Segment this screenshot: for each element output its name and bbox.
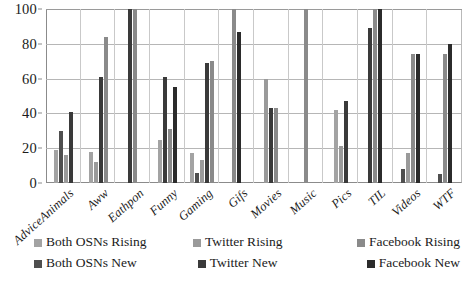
bar — [99, 77, 103, 183]
group-separator — [426, 9, 427, 183]
bar-group — [289, 9, 324, 183]
group-separator — [322, 9, 323, 183]
y-axis-tick-label: 40 — [22, 106, 37, 121]
bar — [401, 169, 405, 183]
bar — [269, 108, 273, 183]
bar — [334, 110, 338, 183]
y-axis-tick-mark — [38, 9, 42, 10]
bar — [200, 160, 204, 183]
bar-groups — [46, 9, 462, 183]
legend-label: Both OSNs Rising — [46, 234, 147, 250]
bar — [339, 146, 343, 183]
group-separator — [288, 9, 289, 183]
legend-label: Both OSNs New — [46, 255, 137, 271]
bar — [163, 77, 167, 183]
legend-swatch — [357, 239, 365, 247]
legend-item[interactable]: Both OSNs Rising — [34, 232, 193, 252]
legend-swatch — [34, 239, 42, 247]
chart-legend: Both OSNs RisingTwitter RisingFacebook R… — [34, 232, 460, 280]
legend-item[interactable]: Twitter Rising — [193, 232, 357, 252]
x-axis-tick-label: Pics — [329, 186, 355, 212]
bar-group — [185, 9, 220, 183]
bar — [133, 9, 137, 183]
bar-group — [254, 9, 289, 183]
legend-row: Both OSNs RisingTwitter RisingFacebook R… — [34, 232, 460, 252]
plot-area — [46, 9, 462, 183]
legend-swatch — [193, 239, 201, 247]
x-axis-tick-label: WTF — [430, 186, 459, 214]
bar-group — [427, 9, 462, 183]
bar — [69, 112, 73, 183]
bar — [406, 153, 410, 183]
legend-swatch — [34, 260, 42, 268]
bar — [438, 174, 442, 183]
bar — [274, 108, 278, 183]
y-axis-tick-label: 20 — [22, 141, 37, 156]
y-axis-tick-mark — [38, 183, 42, 184]
bar-group — [323, 9, 358, 183]
x-axis-tick-label: Aww — [84, 186, 112, 213]
x-axis-tick-label: Eathpon — [105, 186, 147, 226]
legend-row: Both OSNs NewTwitter NewFacebook New — [34, 253, 460, 273]
legend-swatch — [367, 260, 375, 268]
y-axis-tick-mark — [38, 43, 42, 44]
bar — [128, 9, 132, 183]
bar-group — [393, 9, 428, 183]
bar — [304, 9, 308, 183]
y-axis: 020406080100 — [0, 9, 42, 183]
bar-group — [219, 9, 254, 183]
legend-item[interactable]: Twitter New — [198, 253, 367, 273]
legend-item[interactable]: Both OSNs New — [34, 253, 198, 273]
legend-label: Twitter New — [210, 255, 278, 271]
x-axis-tick-label: Movies — [248, 186, 285, 222]
bar — [264, 79, 268, 183]
bar — [94, 162, 98, 183]
x-axis-labels: AdviceAnimalsAwwEathponFunnyGamingGifsMo… — [46, 184, 462, 230]
group-separator — [184, 9, 185, 183]
bar — [59, 131, 63, 183]
bar-group — [81, 9, 116, 183]
y-axis-tick-label: 0 — [30, 176, 37, 191]
x-axis-tick-label: Videos — [389, 186, 424, 220]
x-axis-tick-label: Music — [287, 186, 320, 218]
bar — [237, 32, 241, 183]
bar — [104, 37, 108, 183]
bar — [344, 101, 348, 183]
group-separator — [357, 9, 358, 183]
group-separator — [218, 9, 219, 183]
group-separator — [80, 9, 81, 183]
legend-label: Facebook Rising — [369, 234, 460, 250]
group-separator — [114, 9, 115, 183]
bar — [158, 140, 162, 184]
bar — [411, 54, 415, 183]
bar — [378, 9, 382, 183]
bar-chart: 020406080100 AdviceAnimalsAwwEathponFunn… — [0, 0, 464, 286]
group-separator — [149, 9, 150, 183]
y-axis-tick-mark — [38, 148, 42, 149]
bar — [54, 150, 58, 183]
bar — [416, 54, 420, 183]
legend-item[interactable]: Facebook Rising — [357, 232, 460, 252]
legend-label: Twitter Rising — [205, 234, 282, 250]
bar — [168, 129, 172, 183]
y-axis-tick-mark — [38, 113, 42, 114]
legend-label: Facebook New — [379, 255, 460, 271]
legend-item[interactable]: Facebook New — [367, 253, 460, 273]
bar-group — [46, 9, 81, 183]
bar — [210, 61, 214, 183]
x-axis-tick-label: Gaming — [176, 186, 216, 225]
bar-group — [115, 9, 150, 183]
y-axis-tick-label: 100 — [15, 2, 37, 17]
bar — [368, 28, 372, 183]
bar — [173, 87, 177, 183]
bar-group — [150, 9, 185, 183]
y-axis-tick-label: 60 — [22, 71, 37, 86]
bar — [205, 63, 209, 183]
x-axis-tick-label: TIL — [366, 186, 390, 209]
bar — [448, 44, 452, 183]
x-axis-tick-label: Gifs — [225, 186, 251, 211]
y-axis-tick-label: 80 — [22, 37, 37, 52]
bar — [232, 9, 236, 183]
bar — [64, 155, 68, 183]
group-separator — [253, 9, 254, 183]
